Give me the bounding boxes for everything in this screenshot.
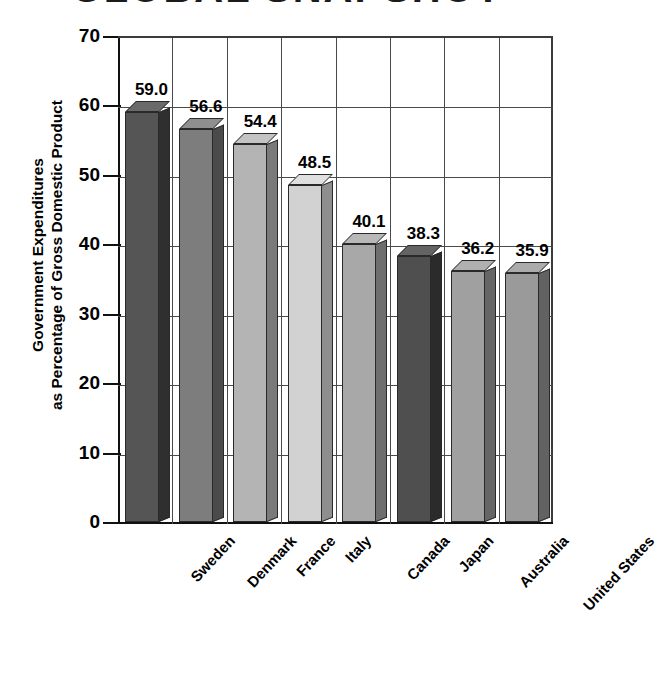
plot-area bbox=[118, 36, 553, 522]
value-label-canada: 40.1 bbox=[352, 212, 385, 232]
y-tick-label-40: 40 bbox=[30, 233, 100, 255]
value-label-denmark: 56.6 bbox=[189, 97, 222, 117]
x-axis-label-united-states: United States bbox=[580, 532, 658, 614]
bar-front-face bbox=[342, 244, 376, 522]
bar-front-face bbox=[288, 185, 322, 522]
y-tick-label-30: 30 bbox=[30, 303, 100, 325]
bar-side-face bbox=[267, 140, 278, 522]
x-axis-label-australia: Australia bbox=[515, 532, 571, 591]
y-tick-label-70: 70 bbox=[30, 25, 100, 47]
bar-side-face bbox=[159, 108, 170, 522]
x-axis-label-france: France bbox=[293, 532, 339, 580]
gridline-vertical-6 bbox=[444, 38, 445, 524]
bar-front-face bbox=[125, 112, 159, 522]
gridline-vertical-5 bbox=[390, 38, 391, 524]
value-label-united-states: 35.9 bbox=[516, 241, 549, 261]
x-axis-label-sweden: Sweden bbox=[187, 532, 238, 585]
bar-front-face bbox=[179, 129, 213, 522]
x-axis-label-japan: Japan bbox=[454, 532, 496, 575]
x-axis-label-canada: Canada bbox=[403, 532, 452, 583]
bar-side-face bbox=[485, 266, 496, 522]
y-tick-label-50: 50 bbox=[30, 164, 100, 186]
gridline-vertical-1 bbox=[172, 38, 173, 524]
value-label-japan: 38.3 bbox=[407, 224, 440, 244]
bar-side-face bbox=[539, 268, 550, 522]
y-tick-label-20: 20 bbox=[30, 372, 100, 394]
bar-side-face bbox=[376, 239, 387, 522]
bar-canada[interactable] bbox=[342, 244, 376, 522]
bar-denmark[interactable] bbox=[179, 129, 213, 522]
gridline-vertical-4 bbox=[336, 38, 337, 524]
value-label-france: 54.4 bbox=[244, 112, 277, 132]
bar-australia[interactable] bbox=[451, 271, 485, 522]
bar-france[interactable] bbox=[233, 144, 267, 522]
bar-japan[interactable] bbox=[397, 256, 431, 522]
bar-side-face bbox=[431, 252, 442, 522]
bar-front-face bbox=[397, 256, 431, 522]
bar-front-face bbox=[233, 144, 267, 522]
x-axis-label-italy: Italy bbox=[341, 532, 374, 566]
value-label-sweden: 59.0 bbox=[135, 80, 168, 100]
bar-front-face bbox=[505, 273, 539, 522]
y-tick-label-10: 10 bbox=[30, 442, 100, 464]
bar-side-face bbox=[213, 125, 224, 522]
value-label-italy: 48.5 bbox=[298, 153, 331, 173]
bar-italy[interactable] bbox=[288, 185, 322, 522]
gridline-vertical-7 bbox=[499, 38, 500, 524]
chart-title: GLOBAL SNAPSHOT bbox=[0, 0, 573, 11]
bar-front-face bbox=[451, 271, 485, 522]
bar-side-face bbox=[322, 181, 333, 522]
y-tick-label-0: 0 bbox=[30, 511, 100, 533]
bar-united-states[interactable] bbox=[505, 273, 539, 522]
value-label-australia: 36.2 bbox=[461, 239, 494, 259]
x-axis-label-denmark: Denmark bbox=[243, 532, 299, 591]
y-tick-label-60: 60 bbox=[30, 94, 100, 116]
gridline-vertical-3 bbox=[281, 38, 282, 524]
bar-sweden[interactable] bbox=[125, 112, 159, 522]
gridline-vertical-2 bbox=[227, 38, 228, 524]
